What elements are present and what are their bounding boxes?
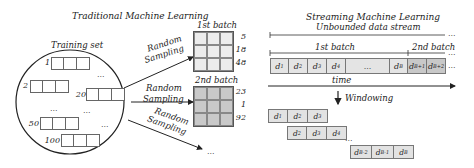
ellipsis: ... <box>50 104 58 113</box>
window-cell: dB-2 <box>350 145 372 159</box>
batch-index: 5 <box>234 32 246 41</box>
training-set-label: Training set <box>51 40 103 50</box>
batch-index: 23 <box>232 87 246 96</box>
window-cell: d2 <box>288 109 308 123</box>
data-stream: d1 d2 d3 d4 ... dB dB+1 dB+2 <box>270 58 446 74</box>
window-1: d1 d2 d3 <box>268 109 328 123</box>
stream-cell: dB+2 <box>427 58 446 74</box>
more-batches-ellipsis: ... <box>207 147 215 156</box>
sample-row <box>40 117 79 130</box>
window-2: d2 d3 d4 <box>287 126 347 140</box>
unbounded-stream-label: Unbounded data stream <box>316 22 420 32</box>
batch-index: 92 <box>232 113 246 122</box>
ellipsis: ... <box>448 48 456 57</box>
sample-id: 50 <box>25 119 39 128</box>
batch-index: 48 <box>234 58 246 67</box>
windowing-label: Windowing <box>345 93 393 103</box>
batch-label: 1st batch <box>197 20 237 30</box>
stream-cell: dB+1 <box>408 58 427 74</box>
time-label: time <box>332 75 351 85</box>
stream-cell: dB <box>390 58 408 74</box>
stream-cell: ... <box>346 58 390 74</box>
ellipsis: ... <box>448 29 456 38</box>
sample-row <box>86 88 125 101</box>
window-cell: dB-1 <box>372 145 394 159</box>
batch-label: 2nd batch <box>195 75 238 85</box>
streaming-ml-title: Streaming Machine Learning <box>306 12 440 22</box>
ellipsis: ... <box>345 134 353 143</box>
batch-index: 1 <box>232 100 246 109</box>
random-sampling-label-2: Random Sampling <box>143 83 184 105</box>
ellipsis: ... <box>101 120 109 129</box>
batch-index: 18 <box>234 45 246 54</box>
sample-id: 2 <box>18 81 28 90</box>
window-cell: d1 <box>268 109 288 123</box>
sample-row <box>30 80 69 93</box>
batch1-label: 1st batch <box>315 42 355 52</box>
window-cell: d4 <box>327 126 347 140</box>
window-3: dB-2 dB-1 dB <box>350 145 414 159</box>
stream-cell: d1 <box>270 58 289 74</box>
sample-id: 100 <box>42 136 60 145</box>
window-cell: d2 <box>287 126 307 140</box>
window-cell: d3 <box>307 126 327 140</box>
stream-cell: d3 <box>308 58 327 74</box>
sample-row <box>61 134 100 147</box>
sample-row <box>51 57 90 70</box>
window-cell: dB <box>394 145 414 159</box>
window-cell: d3 <box>308 109 328 123</box>
ellipsis: ... <box>83 106 91 115</box>
sample-id: 20 <box>72 90 86 99</box>
ellipsis: ... <box>97 70 105 79</box>
stream-cell: d2 <box>289 58 308 74</box>
stream-cell: d4 <box>327 58 346 74</box>
ellipsis: ... <box>448 61 456 70</box>
sample-id: 1 <box>40 58 50 67</box>
batch-grid-1 <box>193 31 234 72</box>
batch-grid-2 <box>193 86 234 127</box>
